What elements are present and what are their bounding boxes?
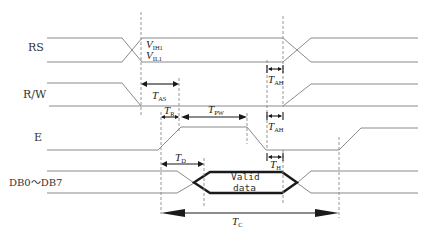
rs-waveform xyxy=(47,38,418,62)
tah-rs-dimension: TAH xyxy=(267,65,284,86)
tah-rw-dimension: TAH xyxy=(267,112,284,133)
rw-waveform xyxy=(47,83,418,106)
svg-text:TAH: TAH xyxy=(268,73,284,86)
signal-label-rs: RS xyxy=(28,41,44,54)
e-waveform xyxy=(47,127,418,150)
tas-dimension: TAS xyxy=(141,81,179,102)
valid-data-label-line1: Valid xyxy=(231,171,260,182)
svg-text:TPW: TPW xyxy=(208,103,225,116)
svg-text:TAS: TAS xyxy=(152,89,167,102)
signal-label-e: E xyxy=(34,131,42,144)
signal-label-rw: R/W xyxy=(23,88,47,101)
threshold-labels: VIH1 VIL1 xyxy=(146,38,163,62)
svg-text:TD: TD xyxy=(175,151,186,164)
tc-dimension: TC xyxy=(161,209,339,228)
valid-data-label-line2: data xyxy=(233,182,256,193)
lcd-read-timing-diagram: RS R/W E DB0～DB7 Valid data xyxy=(0,0,428,238)
svg-text:TAH: TAH xyxy=(268,120,284,133)
signal-label-db: DB0～DB7 xyxy=(9,177,62,188)
svg-text:TC: TC xyxy=(232,215,242,228)
svg-text:TH: TH xyxy=(270,158,281,171)
td-dimension: TD xyxy=(161,151,204,167)
th-dimension: TH xyxy=(267,153,283,171)
